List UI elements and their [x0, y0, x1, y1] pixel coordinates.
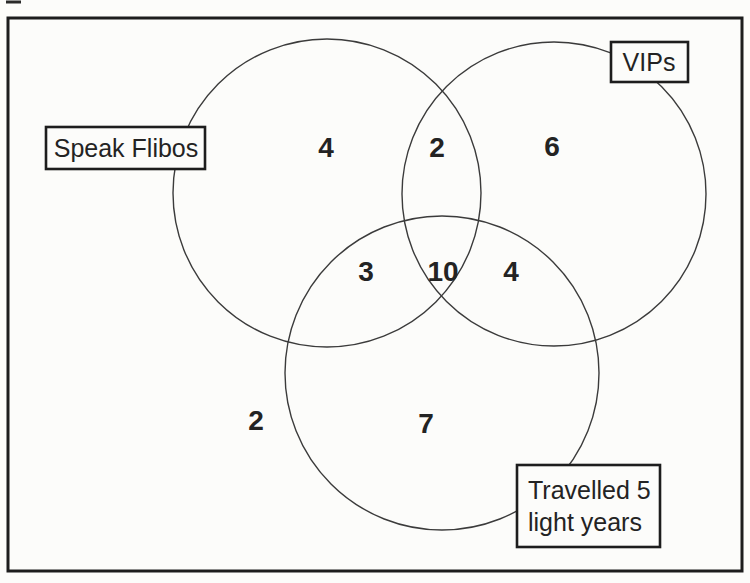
circle-speak-flibos — [173, 39, 481, 347]
count-vips-and-travelled: 4 — [503, 256, 519, 287]
label-text-travelled-line1: Travelled 5 — [528, 476, 651, 504]
label-text-travelled-line2: light years — [528, 508, 642, 536]
label-text-vips: VIPs — [623, 48, 676, 76]
label-text-speak-flibos: Speak Flibos — [54, 134, 199, 162]
count-speak-flibos-and-travelled: 3 — [358, 256, 374, 287]
count-travelled-only: 7 — [418, 408, 434, 439]
count-vips-only: 6 — [544, 131, 560, 162]
label-travelled: Travelled 5 light years — [517, 465, 660, 547]
count-speak-flibos-and-vips: 2 — [429, 132, 445, 163]
count-outside-all: 2 — [248, 405, 264, 436]
count-speak-flibos-only: 4 — [318, 132, 334, 163]
venn-diagram: 4 2 6 3 10 4 2 7 Speak Flibos VIPs Trave… — [0, 0, 750, 583]
count-all-three: 10 — [427, 256, 458, 287]
scanned-figure-page: 4 2 6 3 10 4 2 7 Speak Flibos VIPs Trave… — [0, 0, 750, 583]
label-vips: VIPs — [611, 42, 688, 82]
label-speak-flibos: Speak Flibos — [46, 127, 205, 169]
circle-vips — [402, 42, 706, 346]
